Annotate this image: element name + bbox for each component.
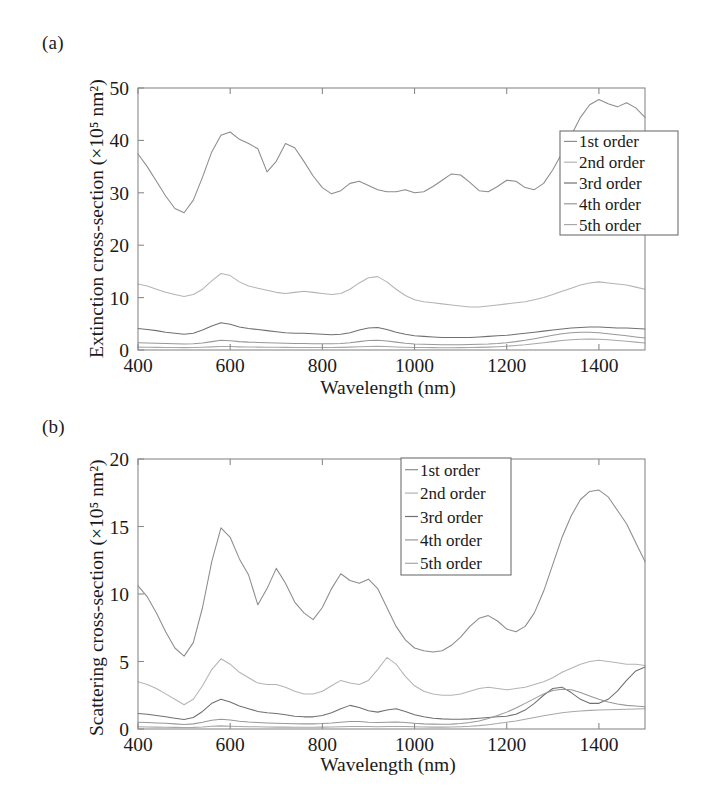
y-tick-label: 0 <box>119 340 129 361</box>
x-tick-label: 600 <box>216 355 245 376</box>
series-line-2nd-order <box>138 274 645 308</box>
panel-a: (a) Extinction cross-section (×10⁵ nm²) … <box>0 0 720 410</box>
y-tick-label: 15 <box>110 517 130 538</box>
x-tick-label: 800 <box>308 355 337 376</box>
legend-label-3: 3rd order <box>420 508 483 527</box>
y-tick-label: 10 <box>110 584 130 605</box>
series-line-5th-order <box>138 709 645 728</box>
legend-label-5: 5th order <box>579 216 641 235</box>
y-tick-label: 10 <box>110 288 130 309</box>
legend-label-3: 3rd order <box>579 174 642 193</box>
x-tick-label: 1200 <box>487 355 526 376</box>
legend-label-4: 4th order <box>420 531 482 550</box>
x-tick-label: 1400 <box>579 734 618 755</box>
plot-frame <box>138 459 645 729</box>
y-tick-label: 20 <box>110 235 130 256</box>
x-tick-label: 1400 <box>579 355 618 376</box>
figure-container: (a) Extinction cross-section (×10⁵ nm²) … <box>0 0 720 794</box>
y-tick-label: 20 <box>110 449 130 470</box>
legend-label-2: 2nd order <box>579 153 645 172</box>
series-line-4th-order <box>138 689 645 724</box>
legend-label-1: 1st order <box>420 461 480 480</box>
panel-a-plot: 400600800100012001400010203040501st orde… <box>0 0 720 410</box>
panel-b-plot: 400600800100012001400051015201st order2n… <box>0 394 720 794</box>
y-tick-label: 5 <box>119 652 129 673</box>
series-line-1st-order <box>138 490 645 656</box>
legend-label-5: 5th order <box>420 554 482 573</box>
legend-label-4: 4th order <box>579 195 641 214</box>
y-tick-label: 0 <box>119 719 129 740</box>
y-tick-label: 50 <box>110 78 130 99</box>
series-line-3rd-order <box>138 323 645 338</box>
series-line-5th-order <box>138 339 645 348</box>
x-tick-label: 1000 <box>395 734 434 755</box>
legend-label-2: 2nd order <box>420 484 486 503</box>
x-tick-label: 800 <box>308 734 337 755</box>
x-tick-label: 1000 <box>395 355 434 376</box>
y-tick-label: 30 <box>110 183 130 204</box>
legend-label-1: 1st order <box>579 132 639 151</box>
x-tick-label: 600 <box>216 734 245 755</box>
series-line-4th-order <box>138 332 645 345</box>
panel-b: (b) Scattering cross-section (×10⁵ nm²) … <box>0 394 720 794</box>
series-line-2nd-order <box>138 657 645 704</box>
y-tick-label: 40 <box>110 130 130 151</box>
x-tick-label: 1200 <box>487 734 526 755</box>
